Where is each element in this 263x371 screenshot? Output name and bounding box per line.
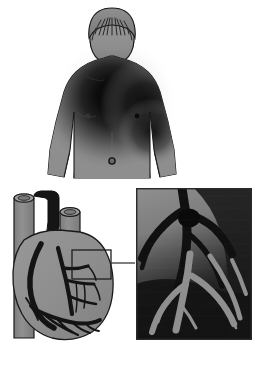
atherosclerotic-plaque (178, 209, 200, 228)
upper-body-pain-distribution (0, 0, 263, 186)
angina-illustration: Angina pectoris: referred chest pain wit… (0, 0, 263, 371)
nipple-left (86, 114, 91, 119)
heart-anterior-view (0, 186, 135, 371)
coronary-artery-magnified-inset (136, 188, 252, 340)
nipple-right (135, 114, 140, 119)
navel (109, 158, 115, 164)
